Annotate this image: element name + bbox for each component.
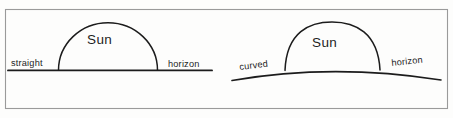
horizon-label-straight-panel: horizon — [168, 59, 200, 69]
figure-canvas — [0, 0, 453, 118]
curved-horizon-line — [232, 72, 441, 81]
sun-label-curved-panel: Sun — [312, 35, 337, 50]
straight-horizon-label: straight — [11, 58, 43, 68]
figure-border — [6, 10, 448, 109]
sun-label-straight-panel: Sun — [87, 32, 112, 47]
sun-horizon-figure: Sun straight horizon Sun curved horizon — [0, 0, 453, 118]
